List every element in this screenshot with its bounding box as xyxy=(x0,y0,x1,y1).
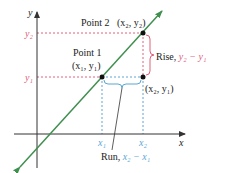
corner-coords: (x₂, y₁) xyxy=(145,83,174,95)
rise-expr: y₂ − y₁ xyxy=(178,51,207,62)
rise-prefix: Rise, xyxy=(156,51,179,62)
slope-diagram: y x y₂ y₁ x₁ x₂ Point 2 (x₂, y₂) Point 1… xyxy=(0,0,227,173)
run-expr: x₂ − x₁ xyxy=(122,151,151,162)
tick-y1: y₁ xyxy=(24,72,33,83)
run-brace xyxy=(104,80,141,88)
point2-coords: (x₂, y₂) xyxy=(117,17,146,29)
point1-dot xyxy=(100,75,105,80)
run-prefix: Run, xyxy=(101,151,123,162)
tick-x2: x₂ xyxy=(138,137,147,148)
tick-x1: x₁ xyxy=(97,137,106,148)
x-axis-label: x xyxy=(178,137,184,148)
rise-brace xyxy=(146,35,154,75)
y-axis-label: y xyxy=(27,7,33,18)
point1-coords: (x₁, y₁) xyxy=(72,60,101,72)
run-label: Run, x₂ − x₁ xyxy=(101,151,150,162)
rise-label: Rise, y₂ − y₁ xyxy=(156,51,206,62)
point1-title: Point 1 xyxy=(73,47,102,58)
corner-dot xyxy=(141,75,146,80)
tick-y2: y₂ xyxy=(24,28,33,39)
point2-title: Point 2 xyxy=(81,17,110,28)
run-leader-line xyxy=(112,88,122,150)
point2-dot xyxy=(141,31,146,36)
